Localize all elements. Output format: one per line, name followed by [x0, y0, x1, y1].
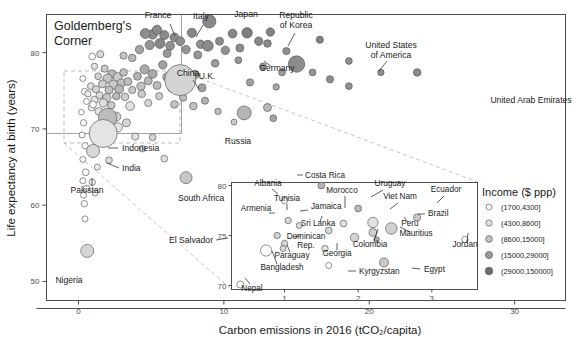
- inset-data-point-sri-lanka: [325, 227, 332, 234]
- inset-point-label: Uruguay: [375, 179, 407, 188]
- legend-swatch: [486, 204, 492, 210]
- data-point: [171, 101, 179, 109]
- point-label: Italy: [193, 11, 209, 21]
- legend-label: (29000,150000]: [501, 267, 553, 276]
- inset-data-point-brazil: [386, 223, 398, 235]
- inset-point-label: Jamaica: [311, 202, 342, 211]
- data-point-republic-of-korea: [242, 28, 252, 38]
- point-label: Russia: [225, 136, 251, 146]
- data-point: [187, 28, 196, 37]
- data-point-pakistan: [87, 145, 100, 158]
- point-label: India: [122, 163, 141, 173]
- data-point: [107, 101, 115, 109]
- point-label: Indonesia: [122, 143, 159, 153]
- data-point: [163, 49, 171, 57]
- data-point: [235, 57, 242, 64]
- point-label: of Korea: [280, 20, 313, 30]
- data-point: [221, 46, 229, 54]
- data-point: [316, 36, 323, 43]
- data-point: [80, 156, 86, 162]
- x-tick-label: 30: [510, 307, 519, 316]
- data-point: [80, 76, 86, 82]
- data-point: [83, 98, 89, 104]
- legend-title: Income ($ ppp): [482, 186, 556, 198]
- data-point: [266, 28, 274, 36]
- data-point-france: [140, 29, 150, 39]
- point-label: China: [177, 68, 200, 78]
- data-point: [148, 70, 157, 79]
- data-point: [326, 76, 333, 83]
- data-point-india: [89, 119, 117, 147]
- data-point: [378, 69, 384, 75]
- data-point: [159, 61, 167, 69]
- data-point: [149, 134, 156, 141]
- data-point: [198, 84, 206, 92]
- legend-swatch: [486, 236, 493, 243]
- legend-swatch: [485, 251, 492, 258]
- data-point: [129, 86, 136, 93]
- data-point-united-arab-emirates: [413, 69, 421, 77]
- inset-point-label: Albania: [254, 179, 282, 188]
- data-point: [156, 93, 163, 100]
- data-point-nigeria: [81, 244, 94, 257]
- legend-swatch: [486, 220, 492, 226]
- data-point: [264, 40, 272, 48]
- data-point: [98, 80, 106, 88]
- inset-x-tick-label: 1: [282, 294, 287, 303]
- inset-point-label: Tunisia: [274, 194, 301, 203]
- inset-point-label: Nepal: [241, 284, 263, 293]
- data-point: [211, 60, 219, 68]
- data-point: [140, 65, 149, 74]
- data-point: [283, 48, 290, 55]
- data-point: [161, 155, 168, 162]
- data-point: [79, 109, 85, 115]
- data-point: [216, 37, 224, 45]
- data-point: [105, 86, 113, 94]
- inset-data-point-morocco: [340, 220, 347, 227]
- data-point: [246, 79, 253, 86]
- data-point-south-africa: [180, 172, 192, 184]
- y-axis-title: Life expectancy at birth (years): [5, 79, 17, 236]
- y-tick-label: 80: [31, 49, 40, 58]
- inset-point-label: Jordan: [452, 240, 477, 249]
- data-point: [80, 120, 86, 126]
- y-tick-label: 50: [31, 277, 40, 286]
- data-point-u-k-: [155, 38, 165, 48]
- y-tick-label: 70: [31, 125, 40, 134]
- data-point: [82, 169, 89, 176]
- point-label: Nigeria: [55, 275, 82, 285]
- inset-data-point-uruguay: [355, 205, 362, 212]
- point-label: of America: [371, 50, 412, 60]
- goldembergs-corner-title-line1: Goldemberg's: [54, 19, 131, 33]
- data-point: [112, 92, 120, 100]
- x-tick-label: 20: [365, 307, 374, 316]
- data-point: [270, 115, 277, 122]
- inset-point-label: Rep.: [297, 241, 314, 250]
- data-point: [89, 53, 96, 60]
- point-label: Republic: [279, 10, 313, 20]
- data-point: [309, 69, 316, 76]
- data-point: [166, 41, 175, 50]
- y-tick-label: 60: [31, 201, 40, 210]
- legend-label: (15000,29000]: [501, 251, 549, 260]
- x-axis-title: Carbon emissions in 2016 (tCO₂/capita): [219, 324, 422, 336]
- legend-label: (8600,15000]: [501, 235, 545, 244]
- data-point: [95, 73, 102, 80]
- inset-y-tick-label: 80: [218, 182, 227, 191]
- data-point: [236, 44, 244, 52]
- data-point: [80, 178, 86, 184]
- data-point: [138, 90, 146, 98]
- legend-swatch: [485, 267, 493, 275]
- data-point: [99, 99, 107, 107]
- inset-point-label: Sri Lanka: [301, 219, 336, 228]
- point-label: Japan: [234, 9, 258, 19]
- data-point: [176, 37, 185, 46]
- data-point: [106, 157, 113, 164]
- data-point: [128, 54, 136, 62]
- inset-data-point-viet-nam: [368, 217, 378, 227]
- x-tick-label: 0: [76, 307, 81, 316]
- inset-point-label: Bangladesh: [260, 263, 304, 272]
- point-label: Germany: [259, 63, 295, 73]
- inset-x-tick-label: 2: [356, 294, 361, 303]
- inset-point-label: Brazil: [428, 209, 449, 218]
